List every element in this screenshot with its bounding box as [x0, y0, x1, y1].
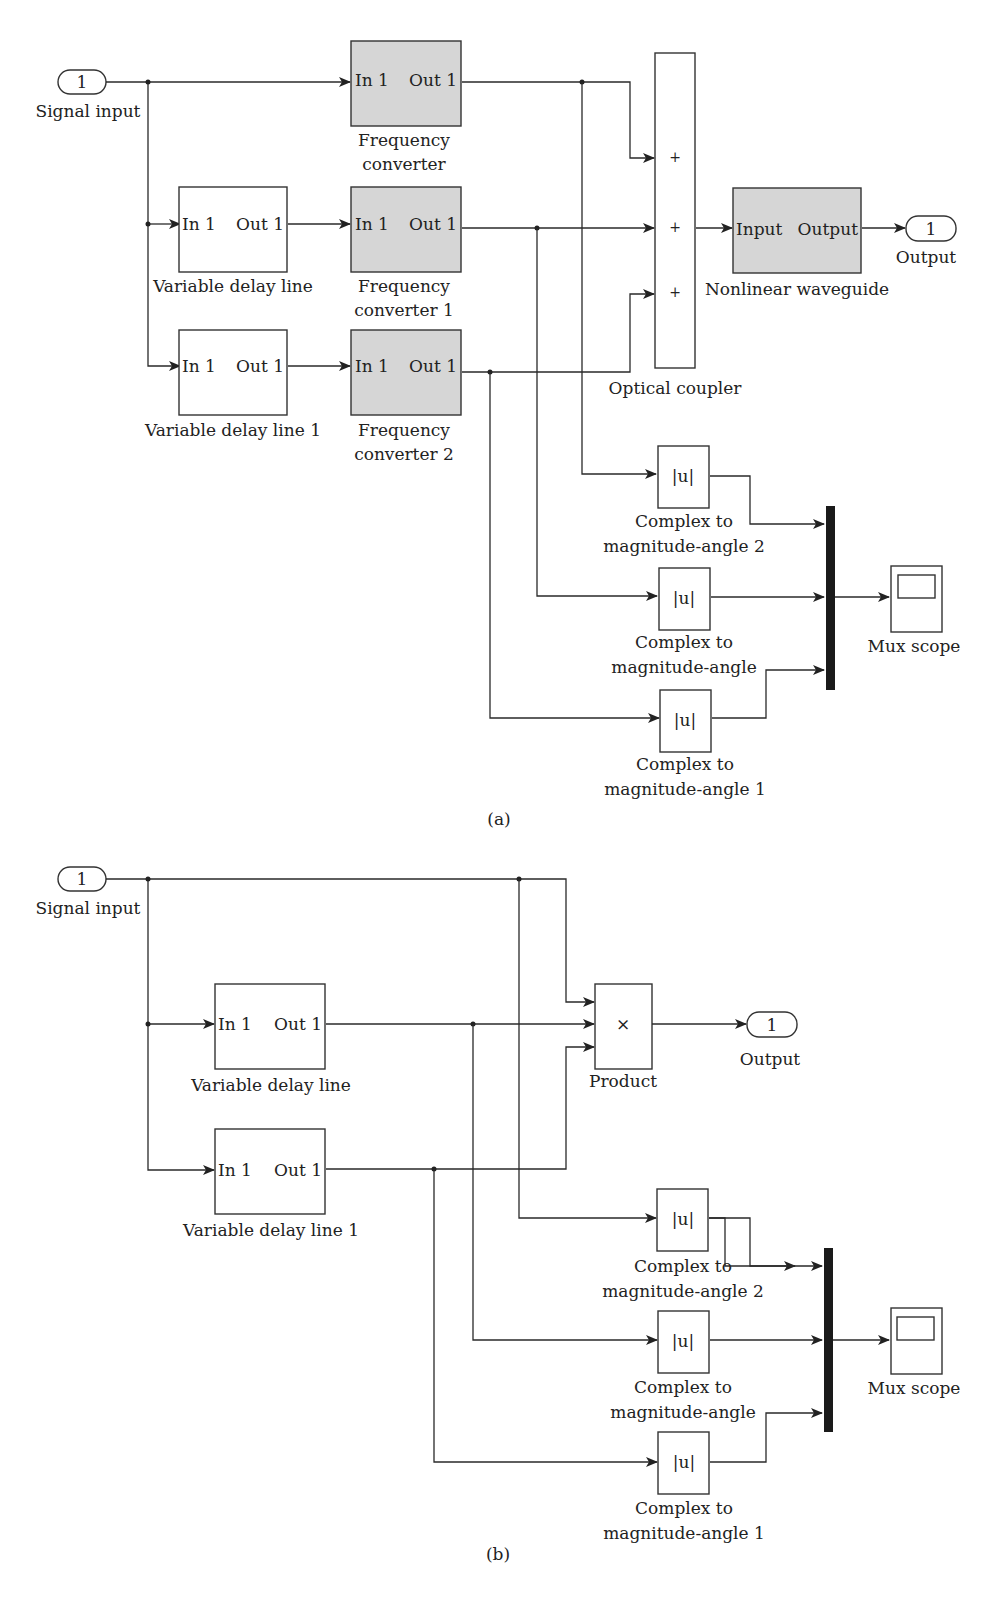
frequency-converter-block[interactable]: In 1 Out 1 [351, 41, 461, 126]
svg-text:magnitude-angle 2: magnitude-angle 2 [603, 536, 765, 556]
svg-text:In 1: In 1 [355, 356, 389, 376]
output-port-b[interactable]: 1 [747, 1012, 797, 1037]
abs-block-2-a[interactable]: |u| [658, 446, 709, 508]
svg-text:converter 2: converter 2 [354, 444, 454, 464]
svg-text:Output: Output [798, 219, 859, 239]
variable-delay-line-block-b[interactable]: In 1 Out 1 [215, 984, 325, 1069]
svg-text:Complex to: Complex to [634, 1377, 732, 1397]
svg-text:Complex to: Complex to [635, 1498, 733, 1518]
svg-text:magnitude-angle: magnitude-angle [611, 657, 756, 677]
product-block[interactable]: × [595, 984, 652, 1069]
frequency-converter-1-block[interactable]: In 1 Out 1 [351, 187, 461, 272]
svg-text:Out 1: Out 1 [409, 70, 457, 90]
svg-text:1: 1 [767, 1015, 778, 1035]
svg-text:|u|: |u| [672, 1331, 694, 1351]
product-label: Product [589, 1071, 657, 1091]
mux-scope-block-b[interactable] [891, 1308, 942, 1374]
svg-text:|u|: |u| [672, 466, 694, 486]
panel-b: 1 Signal input In 1 Out 1 Variable delay… [36, 867, 961, 1564]
svg-text:magnitude-angle 2: magnitude-angle 2 [602, 1281, 764, 1301]
signal-input-label-a: Signal input [36, 101, 141, 121]
svg-text:Complex to: Complex to [635, 511, 733, 531]
scope-screen-icon [897, 1317, 934, 1340]
svg-text:magnitude-angle 1: magnitude-angle 1 [604, 779, 766, 799]
abs-block-b[interactable]: |u| [658, 1311, 709, 1373]
svg-text:magnitude-angle 1: magnitude-angle 1 [603, 1523, 765, 1543]
optical-coupler-label: Optical coupler [609, 378, 743, 398]
svg-text:+: + [669, 149, 681, 165]
nonlinear-waveguide-label: Nonlinear waveguide [705, 279, 889, 299]
variable-delay-line-block-a[interactable]: In 1 Out 1 [179, 187, 287, 272]
panel-a: 1 Signal input In 1 Out 1 Frequency conv… [36, 41, 961, 829]
mux-bar-a[interactable] [826, 506, 835, 690]
variable-delay-line-1-block-b[interactable]: In 1 Out 1 [215, 1129, 325, 1214]
svg-text:magnitude-angle: magnitude-angle [610, 1402, 755, 1422]
svg-text:In 1: In 1 [355, 70, 389, 90]
mux-scope-block-a[interactable] [891, 566, 942, 632]
abs-block-1-a[interactable]: |u| [660, 690, 711, 752]
mux-scope-label-b: Mux scope [868, 1378, 961, 1398]
mux-scope-label-a: Mux scope [868, 636, 961, 656]
svg-text:Frequency: Frequency [358, 276, 450, 296]
svg-text:Variable delay line 1: Variable delay line 1 [182, 1220, 359, 1240]
svg-text:1: 1 [926, 219, 937, 239]
svg-text:Out 1: Out 1 [409, 356, 457, 376]
svg-text:In 1: In 1 [355, 214, 389, 234]
nonlinear-waveguide-block[interactable]: Input Output [733, 188, 861, 273]
scope-screen-icon [898, 575, 935, 598]
svg-text:|u|: |u| [674, 710, 696, 730]
svg-text:Complex to: Complex to [636, 754, 734, 774]
svg-text:converter: converter [362, 154, 446, 174]
svg-text:In 1: In 1 [182, 214, 216, 234]
svg-text:+: + [669, 219, 681, 235]
output-label-b: Output [740, 1049, 801, 1069]
svg-text:Out 1: Out 1 [274, 1014, 322, 1034]
svg-text:Out 1: Out 1 [274, 1160, 322, 1180]
svg-text:Variable delay line 1: Variable delay line 1 [144, 420, 321, 440]
svg-text:Complex to: Complex to [635, 632, 733, 652]
abs-block-2-b[interactable]: |u| [657, 1189, 708, 1251]
svg-text:Frequency: Frequency [358, 420, 450, 440]
mux-bar-b[interactable] [824, 1248, 833, 1432]
signal-input-port-b[interactable]: 1 [58, 867, 106, 891]
svg-text:In 1: In 1 [218, 1014, 252, 1034]
output-port-a[interactable]: 1 [906, 216, 956, 241]
signal-input-label-b: Signal input [36, 898, 141, 918]
svg-text:+: + [669, 284, 681, 300]
svg-text:|u|: |u| [673, 588, 695, 608]
svg-text:1: 1 [77, 869, 88, 889]
svg-text:converter 1: converter 1 [354, 300, 454, 320]
frequency-converter-2-block[interactable]: In 1 Out 1 [351, 330, 461, 415]
frequency-converter-label: Frequency [358, 130, 450, 150]
abs-block-1-b[interactable]: |u| [658, 1432, 709, 1494]
svg-text:Out 1: Out 1 [409, 214, 457, 234]
svg-text:Out 1: Out 1 [236, 214, 284, 234]
svg-text:|u|: |u| [672, 1209, 694, 1229]
variable-delay-line-label-a: Variable delay line [152, 276, 313, 296]
abs-block-a[interactable]: |u| [659, 568, 710, 630]
svg-text:In 1: In 1 [182, 356, 216, 376]
svg-text:Out 1: Out 1 [236, 356, 284, 376]
svg-text:Variable delay line: Variable delay line [190, 1075, 351, 1095]
svg-text:Input: Input [736, 219, 782, 239]
svg-text:In 1: In 1 [218, 1160, 252, 1180]
svg-text:×: × [616, 1014, 630, 1034]
svg-text:Complex to: Complex to [634, 1256, 732, 1276]
signal-input-port-a[interactable]: 1 [58, 70, 106, 94]
output-label-a: Output [896, 247, 957, 267]
caption-b: (b) [486, 1544, 510, 1564]
diagram-canvas: 1 Signal input In 1 Out 1 Frequency conv… [0, 0, 995, 1605]
optical-coupler-block[interactable]: + + + [655, 53, 695, 368]
svg-text:1: 1 [77, 72, 88, 92]
variable-delay-line-1-block-a[interactable]: In 1 Out 1 [179, 330, 287, 415]
svg-text:|u|: |u| [673, 1452, 695, 1472]
caption-a: (a) [487, 809, 510, 829]
